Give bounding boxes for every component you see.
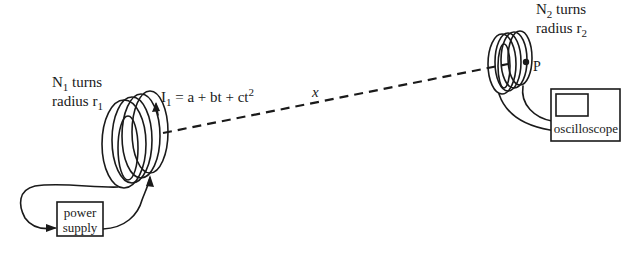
point-p-marker [523,59,529,65]
induction-diagram: x N1 turns radius r1 I1 = a + bt + ct2 p… [0,0,642,256]
oscilloscope-label: oscilloscope [554,121,618,136]
oscilloscope-screen [556,94,588,116]
coil1-radius-label: radius r1 [52,93,103,112]
coil1-turns-label: N1 turns [52,74,102,93]
coil-1 [102,91,168,188]
coil2-radius-label: radius r2 [536,20,587,39]
point-p-label: P [533,59,541,74]
power-supply-label-line2: supply [63,220,98,235]
oscilloscope: oscilloscope [551,89,620,141]
distance-label: x [311,84,319,100]
current-equation: I1 = a + bt + ct2 [161,86,254,108]
power-supply-label-line1: power [64,205,97,220]
coil2-turns-label: N2 turns [536,1,586,20]
power-supply: power supply [57,202,103,236]
